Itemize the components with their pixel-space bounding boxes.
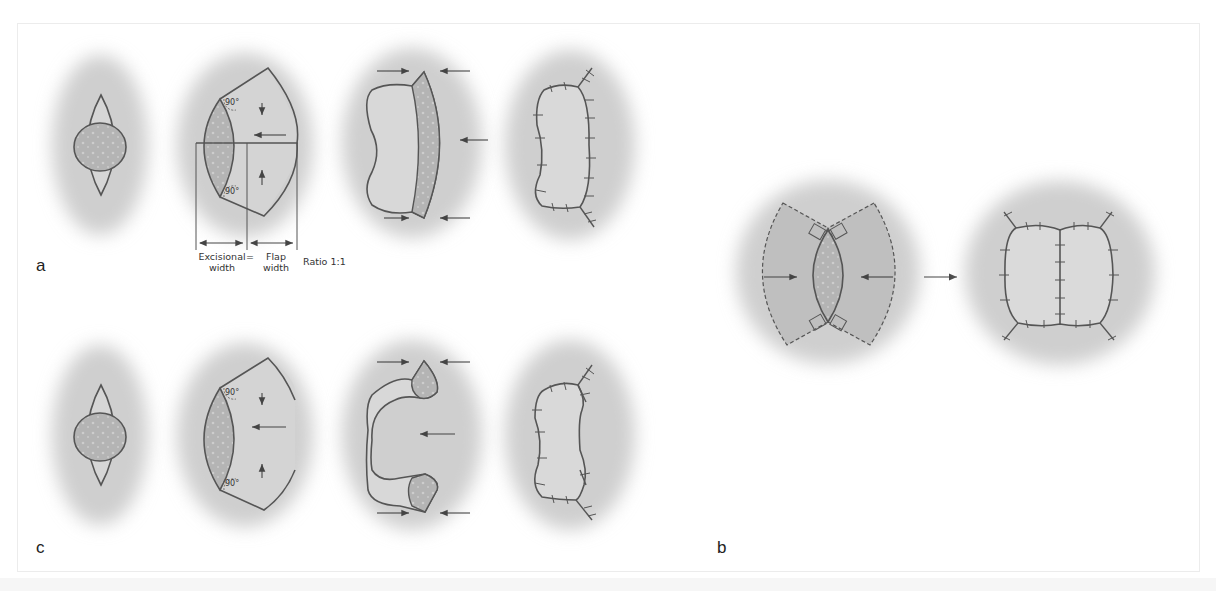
ratio-label: Ratio 1:1 [303,256,346,267]
panel-b-step2 [965,181,1155,365]
panel-c-step4 [505,340,635,530]
panel-a-step4 [505,50,635,240]
flap-line1: Flap [256,251,296,262]
angle-label-bottom-c: 90° [225,478,239,489]
panel-a-step3 [342,48,488,238]
flap-line2: width [256,262,296,273]
angle-label-top-a: 90° [225,97,239,108]
equals-sign: = [246,251,254,262]
excisional-line1: Excisional [196,251,248,262]
excisional-width-caption: Excisional width [196,251,248,273]
panel-c-step2 [177,343,313,527]
excisional-line2: width [196,262,248,273]
panel-a-step2 [177,53,313,250]
panel-c-step1 [52,345,148,525]
flap-width-caption: Flap width [256,251,296,273]
panel-b-step1 [736,180,920,364]
angle-label-bottom-a: 90° [225,186,239,197]
panel-a-step1 [52,55,148,235]
angle-label-top-c: 90° [225,387,239,398]
panel-c-step3 [342,340,482,530]
panel-label-b: b [717,538,726,558]
panel-label-c: c [36,538,45,558]
figure-illustration [0,0,1216,591]
panel-label-a: a [36,256,45,276]
